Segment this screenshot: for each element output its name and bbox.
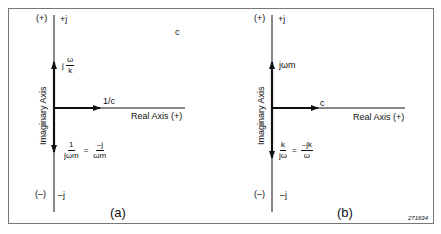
panel-b-bottom-sign: (–) xyxy=(254,190,265,199)
panel-a-y-axis-label: Imaginary Axis xyxy=(38,86,48,145)
figure-number: 271634 xyxy=(408,215,428,221)
panel-b-y-axis-label: Imaginary Axis xyxy=(256,86,266,145)
panel-b-top-sign: (+) xyxy=(254,14,265,23)
panel-a-right-vector-label: 1/c xyxy=(103,97,115,106)
panel-a-up-vector-label: j ωk xyxy=(62,56,74,75)
panel-a-bottom-sign: (–) xyxy=(35,190,46,199)
panel-b-right-vector-label: c xyxy=(320,99,325,108)
panel-a-bottom-label: –j xyxy=(58,191,65,200)
panel-b-caption: (b) xyxy=(337,206,353,219)
panel-b-x-axis-label: Real Axis (+) xyxy=(353,113,404,122)
panel-a-down-vector-label: 1jωm = –jωm xyxy=(63,141,107,160)
panel-a-top-label: +j xyxy=(60,15,67,24)
panel-a-corner-label: c xyxy=(175,28,180,37)
panel-a-caption: (a) xyxy=(110,206,126,219)
panel-b-down-vector-label: kjω = –jkω xyxy=(278,141,313,160)
panel-b-up-vector-label: jωm xyxy=(279,61,296,70)
panel-b-bottom-label: –j xyxy=(280,191,287,200)
panel-a-x-axis-label: Real Axis (+) xyxy=(131,112,182,121)
panel-a-top-sign: (+) xyxy=(36,14,47,23)
panel-b-top-label: +j xyxy=(278,15,285,24)
